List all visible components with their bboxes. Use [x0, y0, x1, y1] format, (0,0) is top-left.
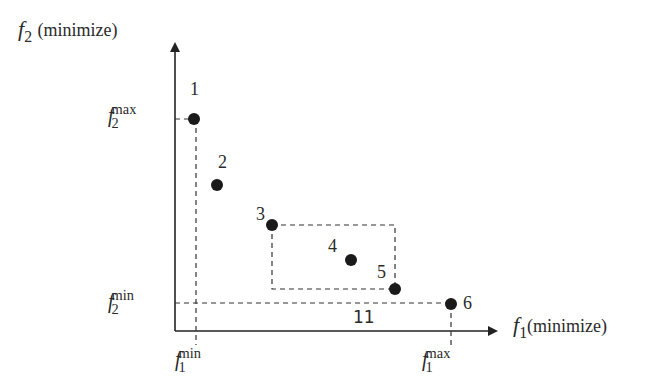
x-axis-index: 1: [519, 324, 527, 341]
y-axis-index: 2: [24, 28, 32, 45]
tick-index: 2: [112, 116, 119, 130]
tick-f2-max: fmax2: [108, 102, 136, 125]
pareto-point-5: [389, 283, 401, 295]
tick-f2-min: fmin2: [108, 288, 134, 311]
tick-f1-max: fmax1: [422, 346, 450, 369]
y-axis-label: (minimize): [38, 20, 118, 40]
point-label-5: 5: [377, 263, 386, 281]
point-label-1: 1: [190, 80, 199, 98]
y-axis-title: f2 (minimize): [18, 18, 118, 44]
x-axis-label: (minimize): [527, 316, 607, 336]
tick-index: 1: [179, 360, 186, 374]
point-label-3: 3: [256, 205, 265, 223]
pareto-point-3: [266, 219, 278, 231]
tick-index: 1: [426, 360, 433, 374]
tick-f1-min: fmin1: [175, 346, 201, 369]
pareto-point-2: [211, 179, 223, 191]
pareto-point-6: [445, 298, 457, 310]
tick-index: 2: [112, 302, 119, 316]
pareto-point-4: [345, 254, 357, 266]
point-label-6: 6: [463, 294, 472, 312]
x-axis-title: f1(minimize): [513, 314, 607, 340]
point-label-2: 2: [218, 153, 227, 171]
pareto-point-1: [188, 113, 200, 125]
region-label: 11: [353, 309, 375, 326]
point-label-4: 4: [328, 237, 337, 255]
